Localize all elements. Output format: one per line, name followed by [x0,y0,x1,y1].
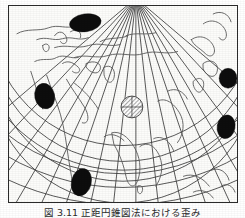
figure-container: 図 3.11 正距円錐図法における歪み [0,0,245,218]
map-frame [8,5,238,203]
figure-caption: 図 3.11 正距円錐図法における歪み [0,207,245,218]
indicatrix-east-upper [219,68,237,88]
map-canvas [9,6,237,202]
